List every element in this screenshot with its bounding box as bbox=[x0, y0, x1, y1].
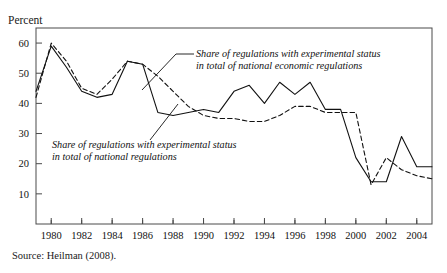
y-tick-label: 30 bbox=[19, 128, 30, 139]
y-tick-label: 60 bbox=[19, 38, 30, 49]
x-tick-label: 1994 bbox=[254, 230, 276, 241]
y-tick-label: 20 bbox=[19, 158, 30, 169]
annotation-total-line1: Share of regulations with experimental s… bbox=[52, 139, 237, 150]
y-axis-ticks bbox=[36, 43, 42, 194]
annotation-economic-line2: in total of national economic regulation… bbox=[196, 60, 362, 71]
chart-container: 102030405060 198019821984198619881990199… bbox=[0, 0, 447, 273]
annotation-total-leader-line bbox=[150, 104, 178, 140]
x-axis-ticks bbox=[51, 218, 417, 224]
y-axis-tick-labels: 102030405060 bbox=[19, 38, 30, 200]
y-tick-label: 10 bbox=[19, 189, 30, 200]
x-tick-label: 1988 bbox=[163, 230, 184, 241]
x-tick-label: 1990 bbox=[193, 230, 214, 241]
y-tick-label: 50 bbox=[19, 68, 30, 79]
x-axis-tick-labels: 1980198219841986198819901992199419961998… bbox=[41, 230, 428, 241]
x-tick-label: 1986 bbox=[132, 230, 153, 241]
x-tick-label: 1980 bbox=[41, 230, 62, 241]
x-tick-label: 1996 bbox=[284, 230, 305, 241]
x-tick-label: 1992 bbox=[224, 230, 245, 241]
annotation-economic: Share of regulations with experimental s… bbox=[142, 48, 381, 90]
x-tick-label: 1984 bbox=[102, 230, 124, 241]
annotation-economic-leader-line bbox=[142, 54, 194, 90]
annotation-total-line2: in total of national regulations bbox=[52, 151, 177, 162]
x-tick-label: 2004 bbox=[406, 230, 428, 241]
x-tick-label: 2000 bbox=[345, 230, 366, 241]
x-tick-label: 2002 bbox=[376, 230, 397, 241]
annotation-economic-line1: Share of regulations with experimental s… bbox=[196, 48, 381, 59]
line-chart: 102030405060 198019821984198619881990199… bbox=[0, 0, 447, 273]
x-tick-label: 1982 bbox=[71, 230, 92, 241]
x-tick-label: 1998 bbox=[315, 230, 336, 241]
y-tick-label: 40 bbox=[19, 98, 30, 109]
source-note: Source: Heilman (2008). bbox=[12, 250, 116, 261]
annotation-total: Share of regulations with experimental s… bbox=[52, 104, 237, 162]
